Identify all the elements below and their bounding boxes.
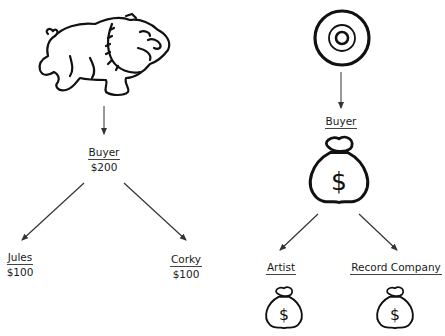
buyer-name: Buyer [88, 146, 121, 160]
corky-label: Corky $100 [166, 253, 206, 280]
buyer-label-left: Buyer $200 [84, 146, 124, 173]
money-bag-icon: $ [310, 137, 367, 202]
arrow-to-artist [280, 214, 318, 250]
jules-amount: $100 [3, 265, 37, 278]
svg-text:$: $ [331, 167, 347, 196]
diagram-canvas: $ $ $ [0, 0, 445, 336]
money-bag-icon-artist: $ [266, 287, 302, 328]
buyer-amount: $200 [84, 160, 124, 173]
jules-name: Jules [7, 251, 34, 265]
svg-text:$: $ [279, 306, 289, 324]
arrow-to-record-company [359, 214, 397, 250]
corky-name: Corky [170, 253, 202, 267]
jules-label: Jules $100 [3, 251, 37, 278]
artist-name: Artist [266, 261, 296, 275]
record-disc-icon [315, 11, 369, 65]
money-bag-icon-record-company: $ [377, 287, 413, 328]
arrow-to-corky [124, 183, 186, 240]
buyer-label-right: Buyer [321, 115, 361, 129]
record-company-label: Record Company [350, 261, 442, 275]
buyer-name-right: Buyer [325, 115, 358, 129]
bulldog-icon [40, 14, 170, 95]
arrow-to-jules [22, 183, 84, 240]
svg-text:$: $ [390, 306, 400, 324]
record-company-name: Record Company [350, 261, 442, 275]
corky-amount: $100 [166, 267, 206, 280]
artist-label: Artist [260, 261, 302, 275]
